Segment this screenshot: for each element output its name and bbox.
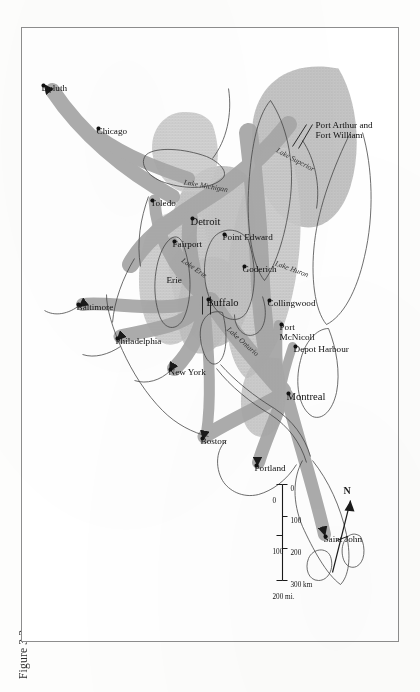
scale-tick-km: 300 km	[290, 580, 312, 588]
map-frame: Saint JohnPortlandBostonNew YorkPhiladel…	[21, 27, 399, 642]
place-label: Boston	[200, 436, 226, 445]
scale-tick-mi: 0	[272, 496, 276, 504]
place-label: Chicago	[96, 126, 127, 135]
scale-tick-mi: 100	[272, 547, 283, 555]
place-label: Port McNicoll	[279, 322, 314, 341]
place-label: Duluth	[41, 83, 67, 92]
place-label: Fairport	[172, 239, 202, 248]
place-label: Buffalo	[206, 297, 238, 308]
place-label: Montreal	[286, 391, 325, 402]
north-arrow-label: N	[343, 484, 350, 495]
scale-tick-km: 200	[290, 548, 301, 556]
place-label: Port Arthur and Fort William	[315, 120, 372, 139]
place-label: Philadelphia	[115, 336, 161, 345]
place-label: Toledo	[150, 198, 175, 207]
scale-tick-km: 0	[290, 484, 294, 492]
place-label: Goderich	[242, 264, 276, 273]
place-label: Collingwood	[267, 298, 315, 307]
map-canvas: Saint JohnPortlandBostonNew YorkPhiladel…	[22, 28, 398, 641]
scale-tick-km: 100	[290, 516, 301, 524]
place-label: Detroit	[190, 216, 220, 227]
place-label: Point Edward	[222, 232, 272, 241]
place-label: Baltimore	[76, 302, 113, 311]
place-label: Portland	[254, 463, 285, 472]
place-label: Erie	[166, 275, 181, 284]
scale-bar: 0100200300 km 0100200 mi.	[238, 480, 302, 600]
figure-plate: Figure 3.3	[0, 0, 420, 692]
scale-tick-mi: 200 mi.	[272, 592, 294, 600]
north-arrow: N	[326, 480, 360, 576]
place-label: New York	[168, 367, 205, 376]
place-label: Depot Harbour	[293, 344, 348, 353]
